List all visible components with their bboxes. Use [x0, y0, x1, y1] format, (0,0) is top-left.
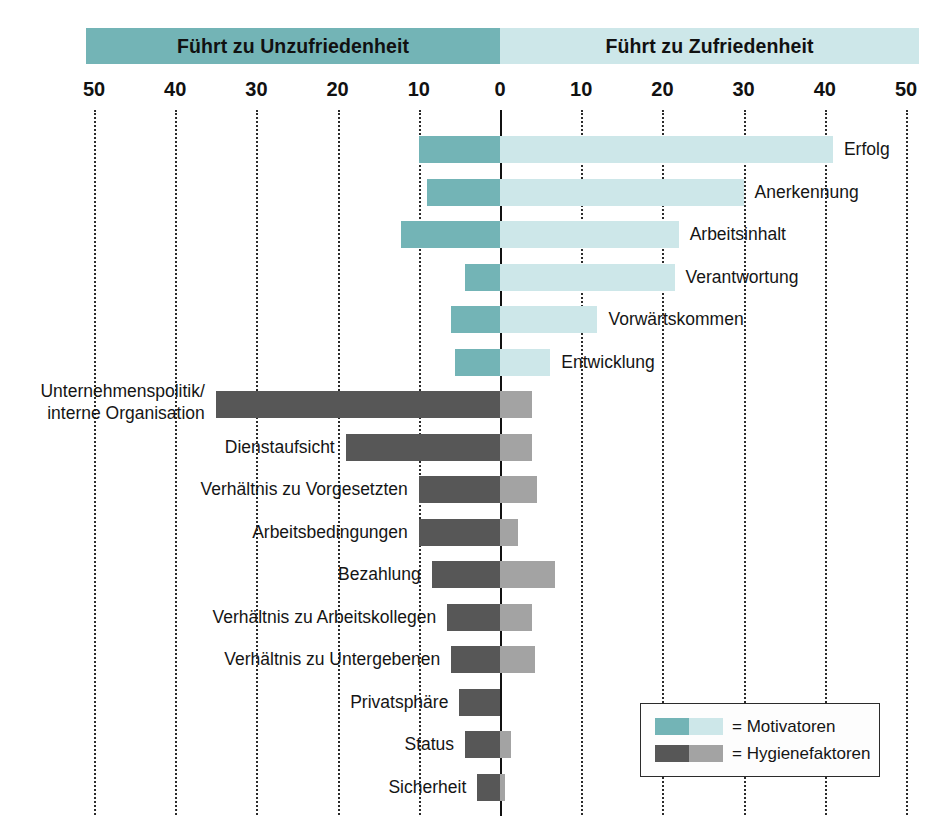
bar-segment-dissatisfaction	[447, 604, 500, 631]
bar-row-entwicklung[interactable]	[455, 349, 550, 376]
bar-segment-satisfaction	[500, 221, 679, 248]
legend-item-hygienefaktoren: = Hygienefaktoren	[655, 744, 879, 764]
bar-label-verh-ltnis-zu-arbeitskollegen: Verhältnis zu Arbeitskollegen	[212, 608, 436, 627]
bar-label-dienstaufsicht: Dienstaufsicht	[225, 438, 335, 457]
bar-segment-satisfaction	[500, 519, 518, 546]
bar-label-unternehmenspolitik-interne-organisation: Unternehmenspolitik/interne Organisation	[40, 380, 204, 424]
legend-swatch-hygienefaktoren-dark	[655, 745, 689, 762]
bar-label-arbeitsinhalt: Arbeitsinhalt	[690, 225, 786, 244]
bar-segment-satisfaction	[500, 476, 537, 503]
bar-row-unternehmenspolitik-interne-organisation[interactable]	[216, 391, 532, 418]
bar-label-status: Status	[404, 735, 454, 754]
bar-segment-satisfaction	[500, 136, 833, 163]
bar-row-dienstaufsicht[interactable]	[346, 434, 532, 461]
bar-segment-dissatisfaction	[419, 476, 500, 503]
legend-swatch-motivatoren-dark	[655, 718, 689, 735]
legend-label-hygienefaktoren: = Hygienefaktoren	[732, 744, 870, 764]
bar-segment-dissatisfaction	[346, 434, 500, 461]
legend-label-motivatoren: = Motivatoren	[732, 717, 835, 737]
bar-segment-satisfaction	[500, 264, 675, 291]
bar-segment-satisfaction	[500, 349, 550, 376]
bar-label-erfolg: Erfolg	[844, 140, 890, 159]
bar-row-sicherheit[interactable]	[477, 774, 505, 801]
legend-swatch-hygienefaktoren-light	[689, 745, 723, 762]
bar-label-vorw-rtskommen: Vorwärtskommen	[608, 310, 743, 329]
bar-label-arbeitsbedingungen: Arbeitsbedingungen	[252, 523, 408, 542]
bar-segment-dissatisfaction	[216, 391, 500, 418]
bar-row-arbeitsinhalt[interactable]	[401, 221, 679, 248]
bar-segment-dissatisfaction	[451, 306, 500, 333]
bar-row-verantwortung[interactable]	[465, 264, 674, 291]
bar-row-status[interactable]	[465, 731, 511, 758]
bar-label-verh-ltnis-zu-untergebenen: Verhältnis zu Untergebenen	[224, 650, 440, 669]
bar-segment-dissatisfaction	[465, 264, 500, 291]
bar-label-sicherheit: Sicherheit	[388, 778, 466, 797]
legend-swatch-motivatoren-light	[689, 718, 723, 735]
bar-segment-dissatisfaction	[432, 561, 500, 588]
bar-row-anerkennung[interactable]	[427, 179, 744, 206]
bar-segment-satisfaction	[500, 561, 555, 588]
bar-row-verh-ltnis-zu-arbeitskollegen[interactable]	[447, 604, 531, 631]
bar-label-privatsph-re: Privatsphäre	[350, 693, 448, 712]
bar-segment-dissatisfaction	[401, 221, 500, 248]
bar-row-erfolg[interactable]	[419, 136, 833, 163]
bar-segment-dissatisfaction	[419, 136, 500, 163]
bar-segment-dissatisfaction	[427, 179, 500, 206]
bar-segment-satisfaction	[500, 179, 744, 206]
bar-label-anerkennung: Anerkennung	[755, 183, 859, 202]
legend-swatch-hygienefaktoren	[655, 745, 723, 762]
bar-row-privatsph-re[interactable]	[459, 689, 500, 716]
bar-label-verh-ltnis-zu-vorgesetzten: Verhältnis zu Vorgesetzten	[201, 480, 408, 499]
bar-segment-satisfaction	[500, 774, 505, 801]
bar-segment-dissatisfaction	[419, 519, 500, 546]
herzberg-two-factor-chart: Führt zu Unzufriedenheit Führt zu Zufrie…	[0, 0, 952, 825]
bar-label-bezahlung: Bezahlung	[338, 565, 421, 584]
bar-row-vorw-rtskommen[interactable]	[451, 306, 597, 333]
bar-segment-satisfaction	[500, 731, 511, 758]
bar-segment-satisfaction	[500, 434, 532, 461]
legend: = Motivatoren = Hygienefaktoren	[640, 703, 880, 777]
bar-segment-dissatisfaction	[477, 774, 500, 801]
legend-item-motivatoren: = Motivatoren	[655, 717, 879, 737]
plot-area: ErfolgAnerkennungArbeitsinhaltVerantwort…	[0, 0, 952, 825]
bar-row-verh-ltnis-zu-vorgesetzten[interactable]	[419, 476, 538, 503]
bar-segment-satisfaction	[500, 306, 597, 333]
bar-segment-dissatisfaction	[465, 731, 500, 758]
bar-segment-dissatisfaction	[459, 689, 500, 716]
bar-segment-satisfaction	[500, 646, 535, 673]
bar-segment-satisfaction	[500, 604, 532, 631]
bar-row-arbeitsbedingungen[interactable]	[419, 519, 518, 546]
legend-swatch-motivatoren	[655, 718, 723, 735]
bar-segment-satisfaction	[500, 391, 532, 418]
bar-label-verantwortung: Verantwortung	[686, 268, 799, 287]
bar-segment-dissatisfaction	[451, 646, 500, 673]
bar-row-bezahlung[interactable]	[432, 561, 555, 588]
bar-segment-dissatisfaction	[455, 349, 500, 376]
bar-label-entwicklung: Entwicklung	[561, 353, 654, 372]
bar-row-verh-ltnis-zu-untergebenen[interactable]	[451, 646, 535, 673]
